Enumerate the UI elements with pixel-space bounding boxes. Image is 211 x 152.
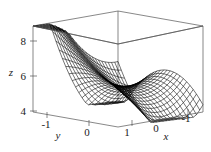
x-axis-title: x	[163, 130, 169, 142]
y-tick-label-0: 0	[84, 126, 90, 138]
y-tick-label-neg1: -1	[41, 118, 50, 130]
x-tick-label-0: 0	[153, 122, 159, 134]
surface-plot-figure: 8 6 4 z -1 0 y 1 0 -1 x	[0, 0, 211, 152]
x-tick-label-1: 1	[124, 126, 130, 138]
z-axis-title: z	[8, 66, 14, 78]
z-tick-label-4: 4	[21, 105, 27, 117]
z-tick-label-6: 6	[21, 70, 27, 82]
z-tick-label-8: 8	[21, 35, 27, 47]
x-tick-label-neg1: -1	[181, 112, 190, 124]
y-axis-title: y	[55, 129, 61, 141]
